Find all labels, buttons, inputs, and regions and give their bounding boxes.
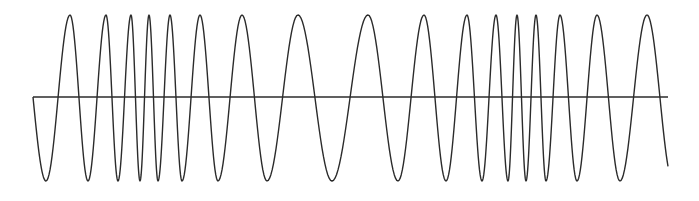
waveform-curve [33,15,668,181]
waveform-canvas [0,0,699,201]
fm-waveform-diagram [0,0,699,201]
